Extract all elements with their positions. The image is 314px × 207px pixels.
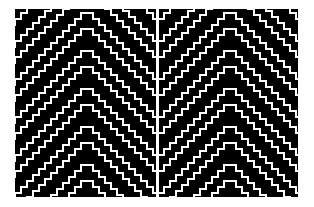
left-panel [15, 9, 156, 197]
right-panel [159, 9, 298, 197]
right-panel-pattern [159, 9, 298, 197]
left-panel-pattern [15, 9, 156, 197]
illusion-figure [0, 0, 314, 207]
panel-pair [15, 9, 298, 197]
